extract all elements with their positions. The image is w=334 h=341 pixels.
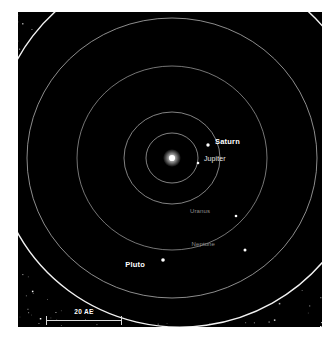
marker-uranus — [235, 215, 238, 218]
marker-pluto — [161, 258, 165, 262]
marker-neptune — [244, 249, 247, 252]
marker-saturn — [206, 143, 209, 146]
scale-bar-cap-left — [46, 316, 47, 325]
scale-bar-line — [46, 320, 122, 321]
scale-bar-label: 20 AE — [46, 308, 122, 315]
solar-system-figure: SaturnJupiterUranusNeptunePluto 20 AE — [0, 0, 334, 341]
panel-background — [18, 12, 322, 327]
orbit-diagram — [18, 12, 322, 327]
sun-marker — [169, 155, 175, 161]
sky-panel: SaturnJupiterUranusNeptunePluto 20 AE — [18, 12, 322, 327]
marker-jupiter — [197, 162, 200, 165]
scale-bar: 20 AE — [46, 308, 122, 326]
scale-bar-cap-right — [121, 316, 122, 325]
